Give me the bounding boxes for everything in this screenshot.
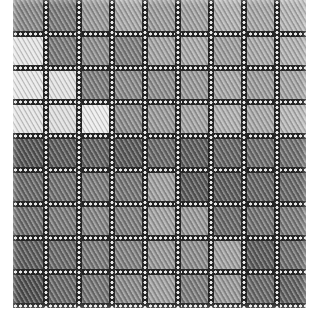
vertical-thread-line — [76, 0, 82, 308]
fabric-patch — [244, 204, 277, 238]
fabric-patch — [244, 170, 277, 204]
fabric-patch — [145, 238, 178, 272]
fiber-texture — [145, 102, 178, 136]
fiber-texture — [244, 170, 277, 204]
fabric-patch — [79, 68, 112, 102]
fabric-patch — [277, 0, 306, 34]
fiber-texture — [46, 34, 79, 68]
fiber-texture — [145, 238, 178, 272]
fabric-patch — [178, 68, 211, 102]
fabric-patch — [178, 136, 211, 170]
fiber-texture — [244, 68, 277, 102]
fabric-patch — [145, 34, 178, 68]
fiber-texture — [145, 272, 178, 306]
fiber-texture — [211, 136, 244, 170]
fabric-patch — [13, 238, 46, 272]
fiber-texture — [277, 102, 306, 136]
fabric-patch — [145, 204, 178, 238]
fabric-patch — [112, 272, 145, 306]
fabric-patch — [211, 170, 244, 204]
horizontal-thread-line — [13, 133, 306, 139]
fabric-patch — [211, 204, 244, 238]
fabric-patch — [112, 238, 145, 272]
fiber-texture — [244, 0, 277, 34]
fiber-texture — [178, 170, 211, 204]
fabric-patch — [46, 102, 79, 136]
fabric-patch — [13, 272, 46, 306]
fabric-patch — [79, 102, 112, 136]
fiber-texture — [112, 204, 145, 238]
horizontal-thread-line — [13, 99, 306, 105]
fabric-patch — [277, 204, 306, 238]
fiber-texture — [145, 0, 178, 34]
fiber-texture — [79, 68, 112, 102]
fiber-texture — [145, 170, 178, 204]
fiber-texture — [178, 102, 211, 136]
fiber-texture — [211, 34, 244, 68]
fabric-patch — [244, 34, 277, 68]
vertical-thread-line — [109, 0, 115, 308]
fabric-patch — [13, 170, 46, 204]
fiber-texture — [46, 0, 79, 34]
fabric-patch — [244, 136, 277, 170]
fabric-patch — [46, 238, 79, 272]
fiber-texture — [112, 272, 145, 306]
fabric-patch — [79, 272, 112, 306]
vertical-thread-line — [208, 0, 214, 308]
fiber-texture — [277, 272, 306, 306]
fabric-patch — [46, 34, 79, 68]
vertical-thread-line — [241, 0, 247, 308]
fiber-texture — [277, 238, 306, 272]
horizontal-thread-line — [13, 201, 306, 207]
fiber-texture — [112, 68, 145, 102]
fiber-texture — [277, 34, 306, 68]
fabric-patch — [145, 272, 178, 306]
fiber-texture — [112, 136, 145, 170]
fabric-patch — [178, 170, 211, 204]
fiber-texture — [79, 136, 112, 170]
vertical-thread-line — [142, 0, 148, 308]
fabric-patch — [277, 170, 306, 204]
fiber-texture — [112, 238, 145, 272]
fabric-patch — [46, 204, 79, 238]
fabric-patch — [13, 34, 46, 68]
fiber-texture — [112, 102, 145, 136]
fabric-patch — [46, 170, 79, 204]
fiber-texture — [178, 204, 211, 238]
fabric-texture-photo — [13, 0, 306, 308]
fabric-patch — [178, 102, 211, 136]
fiber-texture — [13, 204, 46, 238]
fiber-texture — [211, 68, 244, 102]
fiber-texture — [178, 136, 211, 170]
fabric-patch — [211, 136, 244, 170]
fabric-patch — [277, 68, 306, 102]
fiber-texture — [277, 68, 306, 102]
fiber-texture — [145, 34, 178, 68]
fiber-texture — [277, 204, 306, 238]
horizontal-thread-line — [13, 65, 306, 71]
fabric-patch — [178, 204, 211, 238]
fabric-patch — [145, 68, 178, 102]
fiber-texture — [145, 68, 178, 102]
fabric-patch — [145, 170, 178, 204]
fiber-texture — [244, 102, 277, 136]
fabric-patch — [79, 136, 112, 170]
fiber-texture — [277, 0, 306, 34]
fiber-texture — [79, 272, 112, 306]
fabric-patch — [13, 102, 46, 136]
horizontal-thread-line — [13, 303, 306, 308]
fiber-texture — [13, 272, 46, 306]
fabric-patch — [244, 102, 277, 136]
fiber-texture — [79, 0, 112, 34]
fiber-texture — [178, 0, 211, 34]
fiber-texture — [13, 238, 46, 272]
fabric-patch — [211, 68, 244, 102]
fabric-patch — [211, 0, 244, 34]
fiber-texture — [46, 68, 79, 102]
fiber-texture — [46, 204, 79, 238]
fabric-patch — [277, 102, 306, 136]
fiber-texture — [112, 170, 145, 204]
fabric-patch — [112, 170, 145, 204]
fiber-texture — [46, 272, 79, 306]
fabric-patch — [211, 34, 244, 68]
